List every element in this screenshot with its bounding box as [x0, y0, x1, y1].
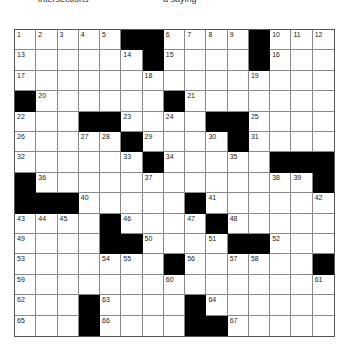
grid-cell[interactable]: 40	[79, 193, 100, 213]
grid-cell[interactable]	[79, 214, 100, 234]
grid-cell[interactable]: 59	[15, 275, 36, 295]
grid-cell[interactable]	[58, 254, 79, 274]
grid-cell[interactable]	[79, 50, 100, 70]
grid-cell[interactable]	[185, 275, 206, 295]
grid-cell[interactable]	[121, 193, 142, 213]
grid-cell[interactable]: 11	[291, 30, 312, 50]
grid-cell[interactable]	[79, 234, 100, 254]
grid-cell[interactable]	[291, 254, 312, 274]
grid-cell[interactable]	[143, 316, 164, 336]
grid-cell[interactable]	[249, 173, 270, 193]
grid-cell[interactable]: 44	[36, 214, 57, 234]
grid-cell[interactable]: 41	[206, 193, 227, 213]
grid-cell[interactable]	[100, 152, 121, 172]
grid-cell[interactable]	[228, 173, 249, 193]
grid-cell[interactable]	[100, 50, 121, 70]
grid-cell[interactable]	[164, 173, 185, 193]
grid-cell[interactable]	[36, 71, 57, 91]
grid-cell[interactable]: 34	[164, 152, 185, 172]
grid-cell[interactable]	[249, 91, 270, 111]
grid-cell[interactable]	[270, 254, 291, 274]
grid-cell[interactable]	[270, 214, 291, 234]
grid-cell[interactable]: 61	[313, 275, 334, 295]
grid-cell[interactable]	[79, 71, 100, 91]
grid-cell[interactable]	[185, 112, 206, 132]
grid-cell[interactable]	[36, 112, 57, 132]
grid-cell[interactable]: 35	[228, 152, 249, 172]
grid-cell[interactable]: 43	[15, 214, 36, 234]
grid-cell[interactable]	[36, 316, 57, 336]
grid-cell[interactable]	[58, 50, 79, 70]
grid-cell[interactable]	[36, 152, 57, 172]
grid-cell[interactable]	[291, 91, 312, 111]
grid-cell[interactable]	[121, 91, 142, 111]
grid-cell[interactable]	[206, 152, 227, 172]
grid-cell[interactable]	[313, 132, 334, 152]
grid-cell[interactable]	[228, 275, 249, 295]
grid-cell[interactable]	[291, 214, 312, 234]
grid-cell[interactable]: 13	[15, 50, 36, 70]
grid-cell[interactable]: 10	[270, 30, 291, 50]
grid-cell[interactable]: 49	[15, 234, 36, 254]
grid-cell[interactable]: 67	[228, 316, 249, 336]
grid-cell[interactable]	[291, 132, 312, 152]
grid-cell[interactable]	[100, 91, 121, 111]
grid-cell[interactable]	[313, 91, 334, 111]
grid-cell[interactable]: 20	[36, 91, 57, 111]
grid-cell[interactable]	[100, 173, 121, 193]
grid-cell[interactable]	[249, 152, 270, 172]
grid-cell[interactable]: 22	[15, 112, 36, 132]
grid-cell[interactable]	[313, 112, 334, 132]
grid-cell[interactable]	[58, 152, 79, 172]
grid-cell[interactable]	[36, 50, 57, 70]
grid-cell[interactable]	[270, 132, 291, 152]
grid-cell[interactable]: 23	[121, 112, 142, 132]
grid-cell[interactable]: 58	[249, 254, 270, 274]
grid-cell[interactable]: 38	[270, 173, 291, 193]
grid-cell[interactable]	[58, 91, 79, 111]
grid-cell[interactable]: 27	[79, 132, 100, 152]
grid-cell[interactable]: 30	[206, 132, 227, 152]
grid-cell[interactable]: 28	[100, 132, 121, 152]
grid-cell[interactable]	[100, 275, 121, 295]
grid-cell[interactable]: 32	[15, 152, 36, 172]
grid-cell[interactable]	[185, 152, 206, 172]
grid-cell[interactable]: 47	[185, 214, 206, 234]
grid-cell[interactable]	[270, 295, 291, 315]
grid-cell[interactable]: 6	[164, 30, 185, 50]
grid-cell[interactable]	[143, 295, 164, 315]
grid-cell[interactable]	[206, 50, 227, 70]
grid-cell[interactable]	[249, 295, 270, 315]
grid-cell[interactable]: 54	[100, 254, 121, 274]
grid-cell[interactable]: 16	[270, 50, 291, 70]
grid-cell[interactable]	[291, 316, 312, 336]
grid-cell[interactable]	[206, 254, 227, 274]
grid-cell[interactable]	[313, 295, 334, 315]
grid-cell[interactable]: 12	[313, 30, 334, 50]
grid-cell[interactable]	[36, 234, 57, 254]
grid-cell[interactable]: 4	[79, 30, 100, 50]
grid-cell[interactable]	[249, 275, 270, 295]
grid-cell[interactable]: 24	[164, 112, 185, 132]
grid-cell[interactable]	[249, 193, 270, 213]
grid-cell[interactable]	[79, 275, 100, 295]
grid-cell[interactable]: 18	[143, 71, 164, 91]
grid-cell[interactable]: 39	[291, 173, 312, 193]
grid-cell[interactable]	[164, 214, 185, 234]
grid-cell[interactable]	[270, 193, 291, 213]
grid-cell[interactable]: 8	[206, 30, 227, 50]
grid-cell[interactable]	[100, 71, 121, 91]
grid-cell[interactable]	[100, 193, 121, 213]
grid-cell[interactable]	[121, 173, 142, 193]
grid-cell[interactable]	[143, 193, 164, 213]
grid-cell[interactable]	[228, 71, 249, 91]
grid-cell[interactable]	[143, 254, 164, 274]
grid-cell[interactable]	[206, 91, 227, 111]
grid-cell[interactable]	[36, 132, 57, 152]
grid-cell[interactable]: 15	[164, 50, 185, 70]
grid-cell[interactable]	[291, 112, 312, 132]
grid-cell[interactable]	[79, 91, 100, 111]
grid-cell[interactable]: 64	[206, 295, 227, 315]
grid-cell[interactable]	[313, 50, 334, 70]
grid-cell[interactable]: 29	[143, 132, 164, 152]
